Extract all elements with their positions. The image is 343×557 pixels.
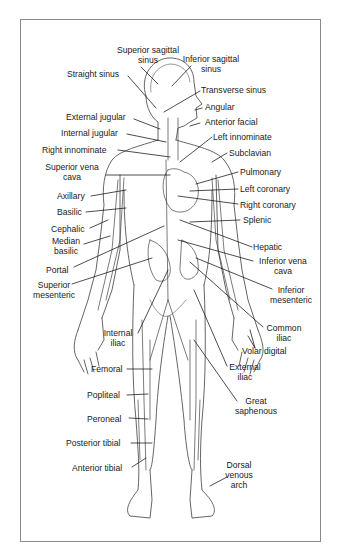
label-popliteal: Popliteal: [87, 390, 120, 400]
label-line: Internal: [98, 328, 138, 338]
label-splenic: Splenic: [243, 215, 271, 225]
label-line: iliac: [98, 338, 138, 348]
label-external-iliac: External iliac: [224, 362, 266, 382]
label-anterior-facial: Anterior facial: [205, 117, 258, 127]
label-hepatic: Hepatic: [253, 242, 282, 252]
label-peroneal: Peroneal: [87, 414, 121, 424]
label-right-coronary: Right coronary: [240, 200, 296, 210]
label-inferior-mesenteric: Inferior mesenteric: [266, 285, 316, 305]
label-portal: Portal: [46, 265, 68, 275]
label-line: Great: [230, 396, 282, 406]
label-internal-iliac: Internal iliac: [98, 328, 138, 348]
label-superior-mesenteric: Superior mesenteric: [28, 280, 80, 300]
label-external-jugular: External jugular: [66, 112, 126, 122]
label-left-coronary: Left coronary: [240, 184, 290, 194]
label-femoral: Femoral: [91, 364, 123, 374]
label-line: Inferior sagittal: [176, 54, 246, 64]
label-common-iliac: Common iliac: [263, 323, 305, 343]
label-line: External: [224, 362, 266, 372]
label-subclavian: Subclavian: [229, 148, 271, 158]
label-cephalic: Cephalic: [51, 224, 84, 234]
label-basilic: Basilic: [57, 207, 82, 217]
label-line: Superior vena: [38, 162, 106, 172]
label-transverse-sinus: Transverse sinus: [201, 85, 266, 95]
label-line: Dorsal: [222, 460, 256, 470]
label-inferior-sagittal-sinus: Inferior sagittal sinus: [176, 54, 246, 74]
label-line: Inferior vena: [253, 256, 313, 266]
label-line: iliac: [224, 372, 266, 382]
label-great-saphenous: Great saphenous: [230, 396, 282, 416]
label-posterior-tibial: Posterior tibial: [66, 438, 120, 448]
label-line: basilic: [46, 246, 86, 256]
label-internal-jugular: Internal jugular: [61, 128, 118, 138]
label-volar-digital: Volar digital: [242, 346, 286, 356]
label-line: saphenous: [230, 406, 282, 416]
label-line: cava: [253, 266, 313, 276]
label-line: iliac: [263, 333, 305, 343]
label-axillary: Axillary: [57, 191, 85, 201]
label-straight-sinus: Straight sinus: [67, 69, 119, 79]
label-line: arch: [222, 480, 256, 490]
label-line: Common: [263, 323, 305, 333]
label-line: cava: [38, 172, 106, 182]
label-line: Median: [46, 236, 86, 246]
label-line: sinus: [176, 64, 246, 74]
label-median-basilic: Median basilic: [46, 236, 86, 256]
label-line: venous: [222, 470, 256, 480]
label-left-innominate: Left innominate: [213, 132, 272, 142]
label-right-innominate: Right innominate: [42, 145, 107, 155]
label-line: Superior: [28, 280, 80, 290]
label-line: mesenteric: [28, 290, 80, 300]
label-line: Inferior: [266, 285, 316, 295]
label-dorsal-venous-arch: Dorsal venous arch: [222, 460, 256, 490]
label-pulmonary: Pulmonary: [240, 167, 281, 177]
label-line: mesenteric: [266, 295, 316, 305]
label-anterior-tibial: Anterior tibial: [72, 463, 122, 473]
venous-system-figure: [0, 0, 343, 557]
label-inferior-vena-cava: Inferior vena cava: [253, 256, 313, 276]
label-superior-vena-cava: Superior vena cava: [38, 162, 106, 182]
label-angular: Angular: [205, 102, 235, 112]
